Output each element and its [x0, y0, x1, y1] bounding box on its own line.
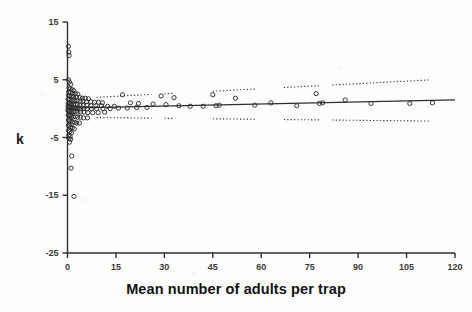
- x-axis-title: Mean number of adults per trap: [0, 281, 472, 297]
- data-point: [159, 94, 163, 98]
- data-point: [343, 98, 347, 102]
- y-tick-label: 15: [0, 17, 59, 27]
- axis-lines: [63, 22, 456, 258]
- data-point-markers: [66, 44, 435, 198]
- y-tick-label: -25: [0, 248, 59, 258]
- scatter-plot-figure: 155-5-15-25 0153045607590105120 k Mean n…: [0, 0, 472, 312]
- data-point: [112, 104, 116, 108]
- data-point: [430, 101, 434, 105]
- y-tick-label: 5: [0, 75, 59, 85]
- data-point: [314, 92, 318, 96]
- x-tick-label: 105: [399, 262, 414, 272]
- x-tick-label: 30: [159, 262, 169, 272]
- x-tick-label: 120: [447, 262, 462, 272]
- data-point: [70, 154, 74, 158]
- x-tick-label: 75: [305, 262, 315, 272]
- y-tick-label: -15: [0, 190, 59, 200]
- x-tick-label: 60: [256, 262, 266, 272]
- data-point: [172, 96, 176, 100]
- data-point: [96, 111, 100, 115]
- y-axis-title: k: [16, 131, 24, 147]
- y-tick-label: -5: [0, 133, 59, 143]
- data-point: [128, 101, 132, 105]
- data-point: [120, 93, 124, 97]
- data-point: [408, 101, 412, 105]
- confidence-bands: [97, 80, 430, 121]
- data-point: [136, 101, 140, 105]
- data-point: [69, 166, 73, 170]
- x-tick-label: 15: [111, 262, 121, 272]
- data-point: [72, 194, 76, 198]
- data-point: [91, 111, 95, 115]
- data-point: [233, 96, 237, 100]
- x-tick-label: 0: [65, 262, 70, 272]
- data-point: [77, 121, 81, 125]
- data-point: [151, 102, 155, 106]
- x-tick-label: 45: [208, 262, 218, 272]
- data-point: [211, 93, 215, 97]
- x-tick-label: 90: [353, 262, 363, 272]
- data-point: [295, 104, 299, 108]
